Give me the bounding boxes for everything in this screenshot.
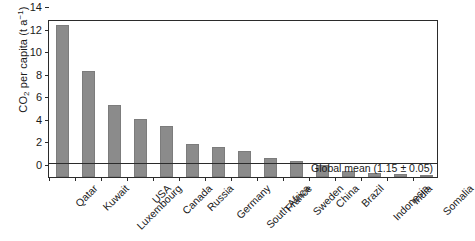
x-axis-tick <box>387 177 388 181</box>
x-axis-tick <box>101 177 102 181</box>
x-axis-label: Somalia <box>440 182 475 217</box>
y-axis-tick-label: 14 <box>30 1 49 13</box>
x-axis-tick <box>179 177 180 181</box>
bar <box>134 119 147 177</box>
x-axis-tick <box>49 177 50 181</box>
bar <box>186 144 199 177</box>
y-axis-tick-label: 10 <box>30 46 49 58</box>
y-axis-title-superscript: −1 <box>16 10 25 19</box>
y-axis-tick-label: 8 <box>36 69 49 81</box>
y-axis-tick-label: 4 <box>36 114 49 126</box>
x-axis-label: Germany <box>234 182 273 221</box>
x-axis-label: Kuwait <box>100 182 131 213</box>
y-axis-title-suffix: ) <box>17 6 29 10</box>
y-axis-title-subscript: 2 <box>22 91 31 96</box>
x-axis-tick <box>75 177 76 181</box>
y-axis-title: CO2 per capita (t a−1) <box>16 0 31 140</box>
y-axis-tick-label: 0 <box>36 159 49 171</box>
x-axis-tick <box>309 177 310 181</box>
x-axis-tick <box>413 177 414 181</box>
bar <box>264 158 277 177</box>
bar <box>108 105 121 177</box>
x-axis-tick <box>283 177 284 181</box>
y-axis-title-middle: per capita (t a <box>17 19 29 91</box>
plot-area: 02468101214 Global mean (1.15 ± 0.05) <box>48 20 438 178</box>
x-axis-label: Brazil <box>359 182 386 209</box>
bar <box>160 126 173 177</box>
x-axis-tick <box>231 177 232 181</box>
global-mean-label: Global mean (1.15 ± 0.05) <box>311 162 433 174</box>
y-axis-tick-label: 6 <box>36 91 49 103</box>
y-axis-tick-label: 12 <box>30 24 49 36</box>
x-axis-tick <box>335 177 336 181</box>
x-axis-tick <box>127 177 128 181</box>
x-axis-label: Qatar <box>73 182 100 209</box>
x-axis-tick <box>361 177 362 181</box>
bar <box>420 175 433 177</box>
bar <box>82 71 95 177</box>
x-axis-tick <box>257 177 258 181</box>
x-axis-tick <box>205 177 206 181</box>
x-axis-tick <box>153 177 154 181</box>
y-axis-tick-label: 2 <box>36 136 49 148</box>
bar <box>56 25 69 177</box>
y-axis-title-prefix: CO <box>17 96 29 113</box>
bar <box>394 174 407 177</box>
